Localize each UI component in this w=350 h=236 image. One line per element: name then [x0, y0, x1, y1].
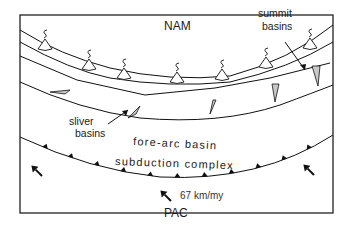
pac-label: PAC [164, 206, 188, 220]
diagram-frame [20, 15, 333, 213]
velocity-label: 67 km/my [180, 190, 223, 201]
sliver-basins-label-line2: basins [75, 127, 105, 139]
summit-basins-label-line1: summit [258, 7, 292, 19]
summit-basins-label-line2: basins [262, 20, 292, 32]
nam-label: NAM [164, 19, 191, 33]
forearc-diagram: NAM summit basins sliver basins fore-arc… [0, 0, 350, 236]
sliver-basins-label-line1: sliver [69, 115, 94, 127]
